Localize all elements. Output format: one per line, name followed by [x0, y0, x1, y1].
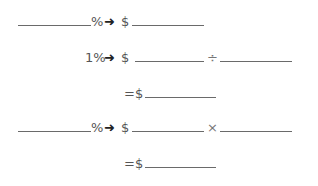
arrow-icon: ➜	[104, 51, 115, 65]
blank-dollar-1[interactable]	[132, 25, 204, 26]
equals-sign: =	[124, 157, 135, 171]
blank-percent-2[interactable]	[18, 131, 91, 132]
blank-result-1[interactable]	[145, 97, 216, 98]
blank-dollar-2[interactable]	[135, 61, 204, 62]
arrow-icon: ➜	[104, 121, 115, 135]
blank-percent-1[interactable]	[18, 25, 91, 26]
dollar-sign: $	[121, 51, 129, 65]
blank-multiplier[interactable]	[220, 131, 292, 132]
one-percent-label: 1%	[85, 51, 106, 65]
percent-sign: %	[91, 15, 103, 29]
multiply-icon: ×	[207, 121, 218, 135]
divide-icon: ÷	[207, 51, 218, 65]
dollar-sign: $	[135, 87, 143, 101]
dollar-sign: $	[121, 15, 129, 29]
equals-sign: =	[124, 87, 135, 101]
blank-divisor[interactable]	[220, 61, 292, 62]
dollar-sign: $	[135, 157, 143, 171]
dollar-sign: $	[121, 121, 129, 135]
blank-result-2[interactable]	[145, 167, 216, 168]
arrow-icon: ➜	[104, 15, 115, 29]
percent-sign: %	[91, 121, 103, 135]
blank-dollar-3[interactable]	[132, 131, 204, 132]
